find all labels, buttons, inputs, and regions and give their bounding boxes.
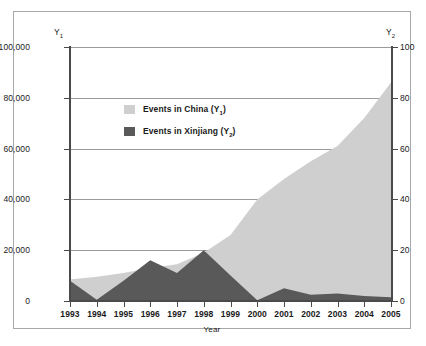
x-axis-tick [231, 302, 232, 307]
legend-label-china-prefix: Events in China (Y [143, 104, 219, 114]
x-axis-tick-label: 2000 [248, 309, 267, 319]
y1-axis-tick-label: 80,000 [3, 93, 30, 103]
x-axis-tick [124, 302, 125, 307]
y1-axis-tick-label: 100,000 [0, 42, 30, 52]
y1-axis-tick-label: 40,000 [3, 194, 30, 204]
y1-axis-tick [64, 301, 69, 302]
y1-axis-tick [64, 199, 69, 200]
y1-axis-title: Y1 [54, 27, 63, 39]
x-axis-tick-label: 1999 [221, 309, 240, 319]
x-axis-tick-label: 2001 [274, 309, 293, 319]
chart-legend: Events in China (Y1) Events in Xinjiang … [124, 104, 236, 148]
legend-label-china-suffix: ) [223, 104, 226, 114]
y2-axis-tick-label: 80 [400, 93, 410, 103]
y1-axis-tick [64, 250, 69, 251]
x-axis-tick-label: 1996 [141, 309, 160, 319]
x-axis-tick [311, 302, 312, 307]
x-axis-tick-label: 1995 [114, 309, 133, 319]
x-axis-tick-label: 1994 [87, 309, 106, 319]
chart-figure: Y1 Y2 020,00040,00060,00080,000100,000 0… [0, 0, 426, 346]
y1-axis-tick [64, 47, 69, 48]
chart-frame: Y1 Y2 020,00040,00060,00080,000100,000 0… [13, 11, 411, 329]
legend-label-china: Events in China (Y1) [143, 104, 226, 116]
legend-swatch-xinjiang [124, 127, 135, 136]
y2-axis-tick [393, 149, 398, 150]
x-axis-tick-label: 1997 [167, 309, 186, 319]
legend-item-events-in-china: Events in China (Y1) [124, 104, 236, 115]
y1-axis-tick-label: 0 [25, 296, 30, 306]
x-axis-tick-label: 2003 [328, 309, 347, 319]
y1-axis-tick [64, 98, 69, 99]
area-series-group [70, 47, 391, 301]
x-axis-tick [338, 302, 339, 307]
y2-axis-spine [391, 46, 393, 302]
y2-axis-title-subscript: 2 [392, 33, 395, 39]
y1-axis-tick-label: 60,000 [3, 144, 30, 154]
y2-axis-tick [393, 98, 398, 99]
x-axis-tick [364, 302, 365, 307]
y2-axis-tick-label: 20 [400, 245, 410, 255]
y2-axis-tick [393, 250, 398, 251]
y2-axis-tick-label: 100 [400, 42, 414, 52]
legend-label-xinjiang-suffix: ) [233, 126, 236, 136]
y1-axis-tick [64, 149, 69, 150]
y1-axis-spine [69, 46, 71, 302]
x-axis-tick [257, 302, 258, 307]
x-axis-tick-label: 2002 [301, 309, 320, 319]
y2-axis-tick-label: 60 [400, 144, 410, 154]
y1-axis-tick-label: 20,000 [3, 245, 30, 255]
legend-label-xinjiang: Events in Xinjiang (Y2) [143, 126, 236, 138]
y2-axis-tick-label: 40 [400, 194, 410, 204]
x-axis-tick [284, 302, 285, 307]
plot-area [70, 47, 391, 301]
x-axis-tick [97, 302, 98, 307]
x-axis-tick-label: 1998 [194, 309, 213, 319]
legend-item-events-in-xinjiang: Events in Xinjiang (Y2) [124, 126, 236, 137]
legend-swatch-china [124, 105, 135, 114]
x-axis-tick-label: 2004 [355, 309, 374, 319]
x-axis-tick [150, 302, 151, 307]
x-axis-tick [391, 302, 392, 307]
x-axis-tick [204, 302, 205, 307]
y2-axis-tick [393, 199, 398, 200]
x-axis-tick-label: 1993 [60, 309, 79, 319]
x-axis-title: Year [14, 325, 410, 334]
legend-label-xinjiang-prefix: Events in Xinjiang (Y [143, 126, 229, 136]
y2-axis-tick [393, 47, 398, 48]
x-axis-tick-label: 2005 [381, 309, 400, 319]
y1-axis-title-subscript: 1 [60, 33, 63, 39]
y2-axis-tick-label: 0 [400, 296, 405, 306]
y2-axis-title: Y2 [386, 27, 395, 39]
x-axis-tick [70, 302, 71, 307]
y2-axis-tick [393, 301, 398, 302]
x-axis-tick [177, 302, 178, 307]
